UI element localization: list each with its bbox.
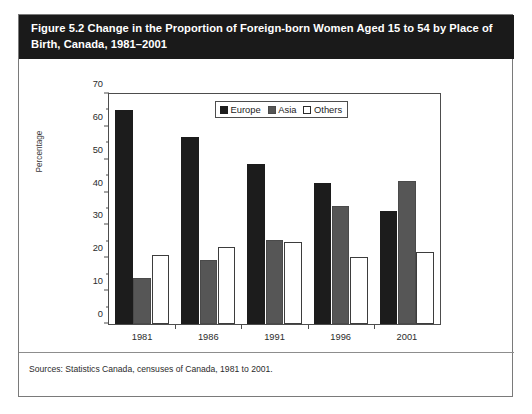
y-axis-tick-label: 70 bbox=[93, 79, 103, 89]
y-axis-tick-label: 40 bbox=[93, 178, 103, 188]
bar-asia-1996 bbox=[332, 206, 350, 324]
y-axis-tick-label: 20 bbox=[93, 243, 103, 253]
bar-europe-1991 bbox=[247, 164, 265, 324]
bar-others-1986 bbox=[218, 247, 236, 324]
y-axis-tick-label: 30 bbox=[93, 210, 103, 220]
bar-others-1981 bbox=[152, 255, 170, 324]
y-axis-tick-label: 0 bbox=[98, 309, 103, 319]
x-axis-tick-label: 1996 bbox=[330, 332, 351, 342]
bar-asia-1986 bbox=[200, 260, 218, 324]
source-note: Sources: Statistics Canada, censuses of … bbox=[29, 364, 273, 374]
y-axis-tick-label: 50 bbox=[93, 145, 103, 155]
bar-asia-2001 bbox=[398, 181, 416, 324]
bar-group-1991 bbox=[241, 94, 307, 324]
page-title: Figure 5.2 Change in the Proportion of F… bbox=[31, 21, 502, 52]
x-axis-tick bbox=[308, 324, 309, 329]
x-axis-tick bbox=[241, 324, 242, 329]
bar-others-2001 bbox=[416, 252, 434, 324]
bar-group-1986 bbox=[175, 94, 241, 324]
bar-europe-2001 bbox=[380, 211, 398, 324]
bar-europe-1996 bbox=[314, 183, 332, 324]
plot-frame: Europe Asia Others 010203040506070 19811… bbox=[108, 93, 441, 325]
bar-asia-1981 bbox=[133, 278, 151, 324]
bar-group-2001 bbox=[374, 94, 440, 324]
y-axis-title: Percentage bbox=[35, 92, 44, 212]
chart-area: Percentage Europe Asia Others 0102030405… bbox=[19, 59, 514, 352]
y-axis-tick-label: 10 bbox=[93, 276, 103, 286]
x-axis-tick bbox=[175, 324, 176, 329]
bar-asia-1991 bbox=[266, 240, 284, 324]
bar-europe-1981 bbox=[115, 110, 133, 324]
bar-others-1991 bbox=[284, 242, 302, 324]
bar-group-1996 bbox=[308, 94, 374, 324]
x-axis-tick-label: 1991 bbox=[264, 332, 285, 342]
source-divider bbox=[19, 352, 514, 353]
bar-group-1981 bbox=[109, 94, 175, 324]
x-axis-tick-label: 1986 bbox=[198, 332, 219, 342]
bar-others-1996 bbox=[350, 257, 368, 324]
x-axis-tick bbox=[374, 324, 375, 329]
y-axis-tick-label: 60 bbox=[93, 112, 103, 122]
figure-container: Figure 5.2 Change in the Proportion of F… bbox=[18, 14, 513, 397]
figure-title-bar: Figure 5.2 Change in the Proportion of F… bbox=[19, 15, 514, 59]
x-axis-tick-label: 2001 bbox=[397, 332, 418, 342]
bar-europe-1986 bbox=[181, 137, 199, 324]
x-axis-tick-label: 1981 bbox=[132, 332, 153, 342]
